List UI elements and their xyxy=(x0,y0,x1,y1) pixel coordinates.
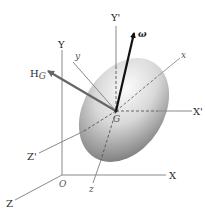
label-angular-velocity: ω xyxy=(138,29,147,39)
mass-center-point xyxy=(114,109,117,112)
label-origin: O xyxy=(59,179,67,189)
rigid-body-ellipsoid xyxy=(60,41,187,178)
label-centroidal-z: Z' xyxy=(27,151,37,162)
rigid-body-diagram: Y X Z O Y' X' Z' x y z HG xyxy=(0,0,205,215)
label-fixed-x: X xyxy=(169,170,177,181)
label-angular-momentum: HG xyxy=(30,68,46,81)
label-fixed-z: Z xyxy=(6,198,13,209)
fixed-z-axis xyxy=(15,175,62,200)
body-x-axis-outside xyxy=(158,58,180,76)
label-body-x: x xyxy=(181,50,186,60)
body-z-axis-outside xyxy=(93,160,101,183)
label-body-z: z xyxy=(88,184,94,194)
label-centroidal-y: Y' xyxy=(110,12,120,23)
label-centroidal-x: X' xyxy=(193,106,203,117)
label-body-y: y xyxy=(74,51,81,61)
label-mass-center: G xyxy=(113,114,120,124)
label-fixed-y: Y xyxy=(57,39,65,50)
